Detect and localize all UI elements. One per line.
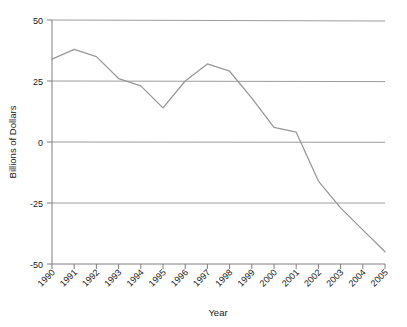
- x-tick-label-8: 1998: [213, 267, 234, 288]
- x-tick-label-0: 1990: [36, 267, 57, 288]
- x-tick-label-2: 1992: [80, 267, 101, 288]
- x-tick-label-3: 1993: [102, 267, 123, 288]
- x-tick-label-11: 2001: [280, 267, 301, 288]
- x-tick-label-4: 1994: [124, 267, 145, 288]
- x-tick-label-15: 2005: [369, 267, 390, 288]
- gridline-25: [52, 81, 385, 82]
- data-series-line: [52, 49, 385, 252]
- chart-figure: 50 25 0 -25 -50 1990: [0, 0, 407, 327]
- y-tick-label-3: -25: [30, 199, 43, 209]
- x-axis-title: Year: [208, 307, 227, 318]
- x-tick-label-9: 1999: [235, 267, 256, 288]
- x-tick-label-6: 1996: [169, 267, 190, 288]
- y-axis-title: Billions of Dollars: [7, 105, 18, 178]
- x-tick-label-12: 2002: [302, 267, 323, 288]
- x-tick-label-13: 2003: [324, 267, 345, 288]
- x-tick-label-7: 1997: [191, 267, 212, 288]
- x-tick-label-5: 1995: [147, 267, 168, 288]
- y-axis-tick-labels: 50 25 0 -25 -50: [30, 16, 43, 270]
- x-axis-tick-labels: 1990 1991 1992 1993 1994 1995 1996 1997 …: [36, 267, 390, 288]
- x-tick-label-14: 2004: [346, 267, 367, 288]
- x-tick-label-10: 2000: [258, 267, 279, 288]
- line-chart-canvas: 50 25 0 -25 -50 1990: [0, 0, 407, 327]
- x-tick-label-1: 1991: [58, 267, 79, 288]
- x-axis-ticks: [52, 264, 385, 269]
- y-gridlines: [52, 20, 385, 203]
- y-tick-label-2: 0: [38, 138, 43, 148]
- y-tick-label-1: 25: [33, 77, 43, 87]
- y-tick-label-0: 50: [33, 16, 43, 26]
- y-axis-ticks: [47, 20, 52, 264]
- y-tick-label-4: -50: [30, 260, 43, 270]
- gridline-50: [52, 20, 385, 21]
